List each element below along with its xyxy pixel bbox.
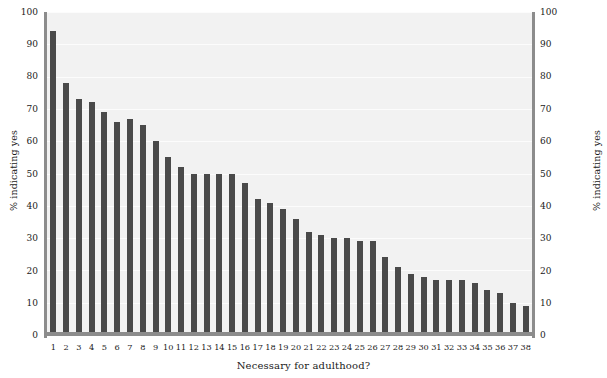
x-tick-label: 17 (251, 341, 264, 353)
x-tick-label: 20 (290, 341, 303, 353)
bar[interactable] (216, 174, 222, 336)
y-tick-right-50: 50 (540, 169, 570, 179)
x-tick-label: 15 (226, 341, 239, 353)
y-tick-left-30: 30 (8, 233, 38, 243)
bar-slot (187, 12, 200, 335)
x-tick-label: 36 (494, 341, 507, 353)
axis-spine-right (532, 12, 535, 338)
bar-slot (149, 12, 162, 335)
bar[interactable] (63, 83, 69, 335)
bar-slot (481, 12, 494, 335)
x-tick-label: 38 (519, 341, 532, 353)
bar[interactable] (459, 280, 465, 335)
bar-slot (366, 12, 379, 335)
bar[interactable] (280, 209, 286, 335)
bar[interactable] (267, 203, 273, 335)
bar[interactable] (191, 174, 197, 336)
x-axis-tick-labels: 1234567891011121314151617181920212223242… (46, 341, 533, 353)
bar[interactable] (395, 267, 401, 335)
y-tick-right-20: 20 (540, 266, 570, 276)
x-tick-label: 3 (73, 341, 86, 353)
bar[interactable] (382, 257, 388, 335)
x-tick-label: 5 (98, 341, 111, 353)
y-tick-right-70: 70 (540, 104, 570, 114)
bar[interactable] (165, 157, 171, 335)
x-tick-label: 29 (404, 341, 417, 353)
bar-slot (328, 12, 341, 335)
y-tick-left-90: 90 (8, 39, 38, 49)
y-tick-right-40: 40 (540, 201, 570, 211)
x-tick-label: 33 (456, 341, 469, 353)
x-tick-label: 8 (136, 341, 149, 353)
x-tick-label: 35 (481, 341, 494, 353)
bar-slot (417, 12, 430, 335)
x-tick-label: 18 (264, 341, 277, 353)
bar[interactable] (408, 274, 414, 335)
x-tick-label: 23 (328, 341, 341, 353)
bar[interactable] (446, 280, 452, 335)
bar[interactable] (344, 238, 350, 335)
bar[interactable] (204, 174, 210, 336)
bar[interactable] (153, 141, 159, 335)
x-tick-label: 34 (468, 341, 481, 353)
bar[interactable] (293, 219, 299, 335)
bar-slot (392, 12, 405, 335)
x-tick-label: 2 (60, 341, 73, 353)
x-tick-label: 26 (366, 341, 379, 353)
bar[interactable] (76, 99, 82, 335)
bar-slot (175, 12, 188, 335)
bar[interactable] (229, 174, 235, 336)
x-tick-label: 31 (430, 341, 443, 353)
x-tick-label: 4 (85, 341, 98, 353)
bar[interactable] (523, 306, 529, 335)
bar[interactable] (484, 290, 490, 335)
bar-slot (264, 12, 277, 335)
bar[interactable] (433, 280, 439, 335)
x-tick-label: 24 (341, 341, 354, 353)
bar[interactable] (331, 238, 337, 335)
bar-series (46, 12, 533, 335)
bar[interactable] (242, 183, 248, 335)
x-tick-label: 11 (175, 341, 188, 353)
bar[interactable] (318, 235, 324, 335)
bar[interactable] (497, 293, 503, 335)
bar-slot (238, 12, 251, 335)
axis-spine-left (44, 12, 47, 338)
bar[interactable] (89, 102, 95, 335)
y-tick-right-10: 10 (540, 298, 570, 308)
bar[interactable] (114, 122, 120, 335)
x-tick-label: 27 (379, 341, 392, 353)
bar-slot (213, 12, 226, 335)
y-tick-left-70: 70 (8, 104, 38, 114)
plot-area (46, 12, 533, 335)
bar[interactable] (140, 125, 146, 335)
bar-slot (456, 12, 469, 335)
bar[interactable] (178, 167, 184, 335)
bar-slot (379, 12, 392, 335)
bar[interactable] (421, 277, 427, 335)
bar[interactable] (370, 241, 376, 335)
bar[interactable] (357, 241, 363, 335)
bar-slot (251, 12, 264, 335)
x-tick-label: 7 (124, 341, 137, 353)
y-tick-right-80: 80 (540, 71, 570, 81)
y-tick-left-80: 80 (8, 71, 38, 81)
bar[interactable] (255, 199, 261, 335)
bar-slot (315, 12, 328, 335)
bar-slot (47, 12, 60, 335)
bar[interactable] (306, 232, 312, 335)
y-tick-left-50: 50 (8, 169, 38, 179)
bar-slot (494, 12, 507, 335)
bar[interactable] (50, 31, 56, 335)
x-tick-label: 32 (443, 341, 456, 353)
y-tick-left-60: 60 (8, 136, 38, 146)
bar-slot (98, 12, 111, 335)
x-tick-label: 6 (111, 341, 124, 353)
bar-slot (162, 12, 175, 335)
y-tick-right-30: 30 (540, 233, 570, 243)
bar[interactable] (510, 303, 516, 335)
y-tick-right-90: 90 (540, 39, 570, 49)
bar[interactable] (101, 112, 107, 335)
bar[interactable] (472, 283, 478, 335)
bar[interactable] (127, 119, 133, 335)
